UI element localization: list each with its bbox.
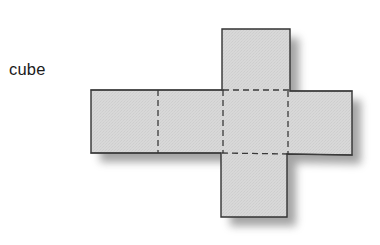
cube-net-drawing xyxy=(0,0,380,245)
cube-net-figure: cube xyxy=(0,0,380,245)
